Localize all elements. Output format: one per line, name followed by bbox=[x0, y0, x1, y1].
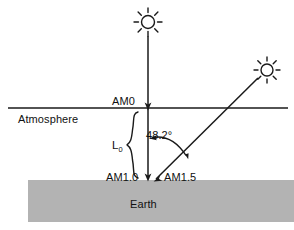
air-mass-diagram: AM0 Atmosphere 48.2° L0 AM1.0 AM1.5 Eart… bbox=[0, 0, 294, 230]
label-earth: Earth bbox=[130, 199, 157, 210]
label-path-length: L0 bbox=[112, 140, 123, 154]
label-am1-5: AM1.5 bbox=[164, 172, 196, 183]
label-path-length-subscript: 0 bbox=[119, 145, 123, 154]
arrowhead-angle-right bbox=[183, 152, 188, 159]
label-am0: AM0 bbox=[112, 96, 135, 107]
label-am1-0: AM1.0 bbox=[106, 172, 138, 183]
label-zenith-angle: 48.2° bbox=[146, 130, 172, 141]
curly-brace-icon bbox=[127, 112, 138, 178]
label-atmosphere: Atmosphere bbox=[18, 114, 78, 125]
earth-band bbox=[28, 180, 294, 222]
sun-overhead-icon bbox=[134, 8, 162, 36]
